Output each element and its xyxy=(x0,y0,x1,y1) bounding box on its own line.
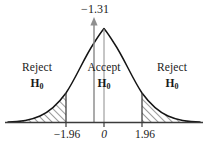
null-hypothesis-subscript-center: 0 xyxy=(106,82,110,91)
accept-region-label: Accept xyxy=(77,62,131,74)
normal-curve-plot xyxy=(0,0,208,148)
test-statistic-arrow-head xyxy=(90,17,97,26)
axis-tick-label-zero: 0 xyxy=(92,129,116,141)
null-hypothesis-label-left: H0 xyxy=(10,78,64,90)
reject-region-label-right: Reject xyxy=(145,62,199,74)
null-hypothesis-label-right: H0 xyxy=(145,78,199,90)
null-hypothesis-subscript-left: 0 xyxy=(39,82,43,91)
distribution-figure: −1.31 Reject H0 Accept H0 Reject H0 −1.9… xyxy=(0,0,208,148)
test-statistic-label: −1.31 xyxy=(68,3,122,15)
axis-tick-label-negative: −1.96 xyxy=(44,129,90,141)
null-hypothesis-subscript-right: 0 xyxy=(174,82,178,91)
axis-tick-label-positive: 1.96 xyxy=(122,129,168,141)
reject-region-label-left: Reject xyxy=(10,62,64,74)
null-hypothesis-label-center: H0 xyxy=(77,78,131,90)
